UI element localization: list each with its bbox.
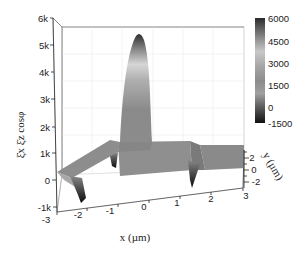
colorbar-tick-3000: 3000 (268, 58, 289, 69)
z-tick-3k: 3k (40, 94, 50, 105)
surface-plot: 6k 5k 4k 3k 2k 1k 0 -1k ξ̇x ξ̇z cosφ -3 … (0, 0, 305, 255)
z-tick-6k: 6k (38, 13, 48, 24)
colorbar-tick-0: 0 (268, 102, 273, 113)
z-tick-1k: 1k (40, 148, 50, 159)
x-tick-1: 1 (174, 197, 179, 208)
x-tick-neg1: -1 (106, 205, 114, 216)
x-tick-neg2: -2 (74, 209, 82, 220)
y-axis: -2 0 2 y (µm) (244, 150, 286, 188)
x-tick-3: 3 (243, 190, 248, 201)
y-tick-0: 0 (251, 164, 256, 175)
x-tick-neg3: -3 (42, 214, 50, 225)
z-tick-4k: 4k (39, 67, 49, 78)
colorbar-tick-6000: 6000 (268, 13, 289, 24)
z-tick-5k: 5k (39, 40, 49, 51)
z-tick-0: 0 (45, 175, 50, 186)
colorbar-tick-neg1500: -1500 (268, 118, 292, 129)
colorbar-tick-1500: 1500 (268, 80, 289, 91)
y-axis-title: y (µm) (260, 150, 287, 183)
z-axis: 6k 5k 4k 3k 2k 1k 0 -1k ξ̇x ξ̇z cosφ (14, 13, 57, 213)
y-tick-neg2: -2 (252, 176, 260, 187)
colorbar-tick-4500: 4500 (268, 36, 289, 47)
z-axis-title: ξ̇x ξ̇z cosφ (14, 112, 27, 159)
x-tick-0: 0 (141, 201, 146, 212)
z-tick-2k: 2k (40, 122, 50, 133)
colorbar: 6000 4500 3000 1500 0 -1500 (255, 13, 292, 129)
y-tick-2: 2 (249, 152, 254, 163)
x-axis-title: x (µm) (120, 231, 151, 244)
x-tick-2: 2 (208, 193, 213, 204)
z-tick-neg1k: -1k (38, 202, 51, 213)
